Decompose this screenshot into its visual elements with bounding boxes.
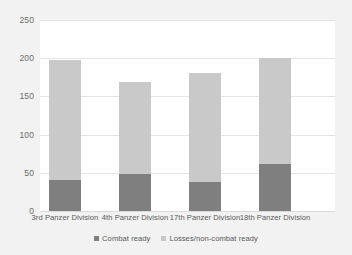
y-tick-label-100: 100 <box>0 130 34 140</box>
bar-group-3[interactable] <box>259 58 291 211</box>
bar-group-0[interactable] <box>49 60 81 211</box>
legend-item-combat-ready[interactable]: Combat ready <box>94 234 150 243</box>
bar-group-1[interactable] <box>119 82 151 211</box>
bar-segment-losses-non-combat-ready-1[interactable] <box>119 82 151 174</box>
legend-label-losses-non-combat-ready: Losses/non-combat ready <box>169 234 258 243</box>
y-tick-label-50: 50 <box>0 168 34 178</box>
y-tick-label-250: 250 <box>0 15 34 25</box>
x-axis: 3rd Panzer Division 4th Panzer Division … <box>40 213 335 229</box>
legend-swatch-icon-losses-non-combat-ready <box>161 236 166 241</box>
bar-group-2[interactable] <box>189 73 221 211</box>
stacked-bar-chart: 250 200 150 100 50 0 3rd Panzer Division… <box>0 0 352 255</box>
bar-segment-combat-ready-2[interactable] <box>189 182 221 211</box>
bar-segment-losses-non-combat-ready-2[interactable] <box>189 73 221 181</box>
bar-segment-combat-ready-0[interactable] <box>49 180 81 211</box>
legend-item-losses-non-combat-ready[interactable]: Losses/non-combat ready <box>161 234 258 243</box>
legend-label-combat-ready: Combat ready <box>102 234 150 243</box>
bar-segment-combat-ready-1[interactable] <box>119 174 151 211</box>
legend-swatch-icon-combat-ready <box>94 236 99 241</box>
bar-segment-combat-ready-3[interactable] <box>259 164 291 211</box>
y-tick-label-150: 150 <box>0 91 34 101</box>
x-tick-label-3: 18th Panzer Division <box>232 213 318 222</box>
bars-layer <box>40 20 335 211</box>
bar-segment-losses-non-combat-ready-3[interactable] <box>259 58 291 163</box>
y-tick-label-200: 200 <box>0 53 34 63</box>
bar-segment-losses-non-combat-ready-0[interactable] <box>49 60 81 181</box>
chart-legend: Combat ready Losses/non-combat ready <box>0 234 352 243</box>
